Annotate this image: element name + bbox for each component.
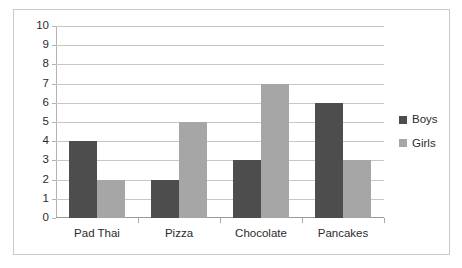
x-tick-1 xyxy=(220,218,221,223)
y-tick-mark-0 xyxy=(52,218,56,219)
x-category-label-chocolate: Chocolate xyxy=(235,228,287,240)
x-category-label-pancakes: Pancakes xyxy=(318,228,369,240)
legend-swatch-boys-icon xyxy=(399,116,407,124)
y-tick-label-7: 7 xyxy=(43,78,49,90)
bars-layer xyxy=(56,26,384,218)
y-tick-label-9: 9 xyxy=(43,39,49,51)
x-tick-3 xyxy=(384,218,385,223)
y-tick-label-10: 10 xyxy=(36,20,49,32)
bar-girls-pad-thai xyxy=(97,180,125,218)
y-tick-label-2: 2 xyxy=(43,174,49,186)
bar-girls-pancakes xyxy=(343,160,371,218)
legend-swatch-girls-icon xyxy=(399,139,407,147)
y-tick-label-4: 4 xyxy=(43,135,49,147)
bar-group xyxy=(302,26,384,218)
chart-frame: 012345678910 Pad ThaiPizzaChocolatePanca… xyxy=(13,9,450,255)
chart-legend: BoysGirls xyxy=(399,114,438,149)
bar-group xyxy=(56,26,138,218)
bar-girls-pizza xyxy=(179,122,207,218)
legend-item-boys[interactable]: Boys xyxy=(399,114,438,126)
bar-boys-pizza xyxy=(151,180,179,218)
plot-area: 012345678910 Pad ThaiPizzaChocolatePanca… xyxy=(56,26,384,218)
y-tick-label-1: 1 xyxy=(43,193,49,205)
y-tick-label-0: 0 xyxy=(43,212,49,224)
x-category-label-pad-thai: Pad Thai xyxy=(74,228,120,240)
legend-label: Girls xyxy=(412,138,436,150)
bar-girls-chocolate xyxy=(261,84,289,218)
y-tick-label-6: 6 xyxy=(43,97,49,109)
y-tick-label-5: 5 xyxy=(43,116,49,128)
bar-boys-pancakes xyxy=(315,103,343,218)
y-tick-label-3: 3 xyxy=(43,155,49,167)
bar-boys-pad-thai xyxy=(69,141,97,218)
x-category-label-pizza: Pizza xyxy=(165,228,193,240)
bar-group xyxy=(220,26,302,218)
legend-item-girls[interactable]: Girls xyxy=(399,138,438,150)
y-tick-label-8: 8 xyxy=(43,59,49,71)
bar-group xyxy=(138,26,220,218)
x-tick-0 xyxy=(138,218,139,223)
x-tick-2 xyxy=(302,218,303,223)
legend-label: Boys xyxy=(412,114,438,126)
bar-boys-chocolate xyxy=(233,160,261,218)
